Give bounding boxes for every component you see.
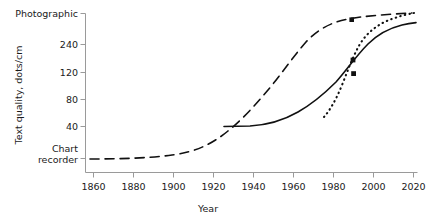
x-tick-label-1900: 1900 — [161, 181, 185, 192]
y-tick-label-240: 240 — [60, 39, 78, 50]
y-tick-label-chart-recorder-line1: Chart — [52, 143, 78, 154]
x-axis-ticks — [94, 173, 414, 178]
series-dotted — [324, 13, 414, 117]
x-axis-title: Year — [197, 203, 218, 214]
y-tick-label-chart-recorder-line2: recorder — [38, 154, 78, 165]
y-tick-label-80: 80 — [66, 94, 78, 105]
y-axis-title: Text quality, dots/cm — [13, 46, 24, 146]
series-solid-marker — [351, 71, 356, 76]
x-tick-label-1860: 1860 — [81, 181, 105, 192]
series-solid — [224, 23, 416, 127]
y-tick-label-40: 40 — [66, 121, 78, 132]
x-tick-label-2000: 2000 — [361, 181, 385, 192]
x-tick-label-1920: 1920 — [201, 181, 225, 192]
x-tick-label-1940: 1940 — [241, 181, 265, 192]
x-tick-label-1880: 1880 — [121, 181, 145, 192]
x-tick-label-1960: 1960 — [281, 181, 305, 192]
y-axis-ticks — [81, 14, 86, 159]
series-photographic-dashed — [90, 13, 412, 159]
y-tick-label-120: 120 — [60, 67, 78, 78]
series-photographic-marker — [349, 17, 354, 22]
chart-figure: Photographic 240 120 80 40 Chart recorde… — [0, 0, 426, 220]
x-tick-label-2020: 2020 — [401, 181, 425, 192]
chart-canvas: Photographic 240 120 80 40 Chart recorde… — [0, 0, 426, 220]
x-tick-label-1980: 1980 — [321, 181, 345, 192]
y-tick-label-photographic: Photographic — [15, 8, 78, 19]
